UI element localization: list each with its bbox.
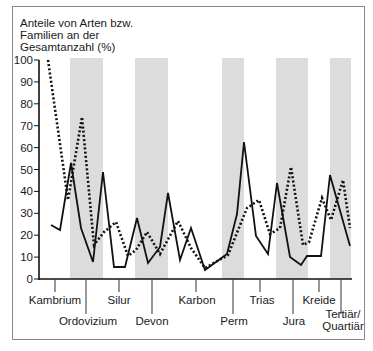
y-tick-label: 0 bbox=[27, 273, 33, 285]
y-tick-label: 80 bbox=[20, 98, 33, 110]
x-period-label: Jura bbox=[283, 315, 305, 327]
x-period-label: Kambrium bbox=[29, 294, 81, 306]
y-tick-label: 30 bbox=[20, 207, 33, 219]
y-tick-label: 50 bbox=[20, 164, 33, 176]
x-period-label: Karbon bbox=[178, 294, 215, 306]
x-period-label: Ordovizium bbox=[59, 315, 117, 327]
y-tick-label: 70 bbox=[20, 120, 33, 132]
x-period-label: Trias bbox=[249, 294, 274, 306]
x-period-label: Perm bbox=[220, 315, 247, 327]
y-tick-label: 100 bbox=[14, 54, 33, 66]
y-tick-label: 60 bbox=[20, 142, 33, 154]
shaded-band-5 bbox=[330, 58, 351, 279]
x-period-label: Kreide bbox=[302, 294, 335, 306]
y-tick-label: 10 bbox=[20, 251, 33, 263]
y-tick-label: 40 bbox=[20, 185, 33, 197]
y-tick-label: 20 bbox=[20, 229, 33, 241]
x-period-label: Devon bbox=[135, 315, 168, 327]
y-axis: 0102030405060708090100 bbox=[14, 54, 39, 285]
x-period-label: Silur bbox=[107, 294, 130, 306]
x-period-label: Tertiär/Quartiär bbox=[322, 308, 364, 332]
y-tick-label: 90 bbox=[20, 76, 33, 88]
